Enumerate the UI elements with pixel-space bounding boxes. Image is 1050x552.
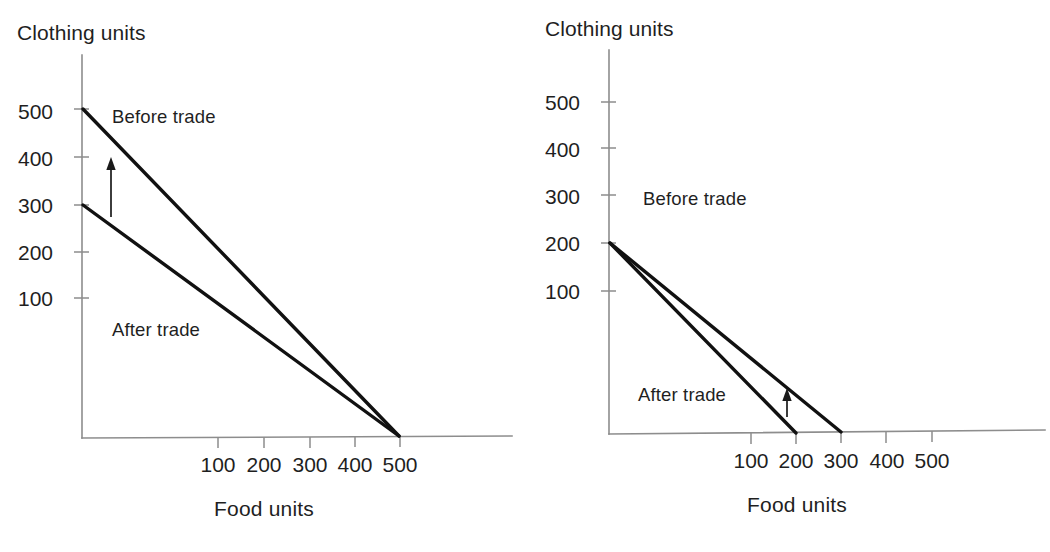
- series-label-after-trade-right: After trade: [638, 386, 726, 405]
- x-tick-label-300-left: 300: [285, 454, 335, 475]
- trade-ppf-figure: Clothing units 500 400 300 200 100 100 2…: [0, 0, 1050, 552]
- x-tick-label-300-right: 300: [816, 450, 866, 471]
- x-tick-label-500-left: 500: [375, 454, 425, 475]
- x-tick-label-100-right: 100: [726, 450, 776, 471]
- ppf-before-trade-left: [83, 109, 399, 436]
- y-axis-title-right: Clothing units: [545, 18, 674, 39]
- gain-arrow-head-left: [106, 157, 115, 170]
- x-tick-label-200-left: 200: [239, 454, 289, 475]
- y-tick-label-400-right: 400: [534, 139, 580, 160]
- y-tick-label-200-right: 200: [534, 233, 580, 254]
- x-tick-label-400-right: 400: [862, 450, 912, 471]
- x-axis-title-left: Food units: [214, 498, 314, 519]
- y-tick-label-300-right: 300: [534, 186, 580, 207]
- x-tick-label-200-right: 200: [771, 450, 821, 471]
- y-tick-label-500-right: 500: [534, 92, 580, 113]
- y-tick-label-400-left: 400: [7, 148, 53, 169]
- series-label-before-trade-left: Before trade: [112, 108, 216, 127]
- x-axis-title-right: Food units: [747, 494, 847, 515]
- x-axis-right: [609, 430, 1045, 434]
- x-axis-left: [82, 436, 512, 438]
- y-tick-label-200-left: 200: [7, 242, 53, 263]
- series-label-before-trade-right: Before trade: [643, 190, 747, 209]
- y-tick-label-500-left: 500: [7, 101, 53, 122]
- chart-panel-right: Clothing units 500 400 300 200 100 100 2…: [525, 0, 1050, 552]
- y-axis-title-left: Clothing units: [17, 22, 146, 43]
- x-tick-label-100-left: 100: [193, 454, 243, 475]
- y-tick-label-100-right: 100: [534, 281, 580, 302]
- x-tick-label-400-left: 400: [330, 454, 380, 475]
- y-tick-label-300-left: 300: [7, 195, 53, 216]
- x-tick-label-500-right: 500: [907, 450, 957, 471]
- series-label-after-trade-left: After trade: [112, 321, 200, 340]
- chart-panel-left: Clothing units 500 400 300 200 100 100 2…: [0, 0, 525, 552]
- y-tick-label-100-left: 100: [7, 288, 53, 309]
